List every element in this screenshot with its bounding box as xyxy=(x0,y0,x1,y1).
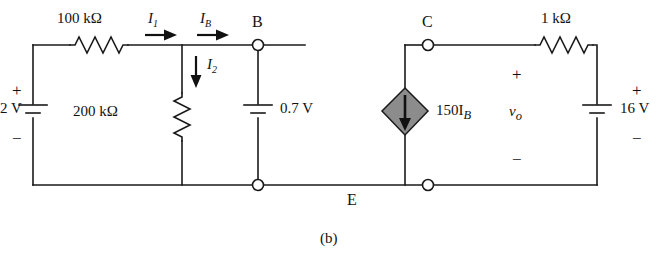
source-16v-minus-sign: − xyxy=(632,130,642,147)
source-2v-label: 2 V xyxy=(0,101,22,116)
current-arrow-i1-head xyxy=(164,30,177,41)
current-arrow-ib-head xyxy=(216,30,229,41)
figure-caption: (b) xyxy=(320,230,338,247)
wire-top-right-corner xyxy=(593,45,597,104)
source-16v-plus-sign: + xyxy=(632,82,642,99)
output-voltage-label: vo xyxy=(509,104,522,123)
resistor-1k-label: 1 kΩ xyxy=(541,11,571,26)
resistor-100k-symbol xyxy=(70,37,128,53)
current-arrow-i2-head xyxy=(191,75,202,88)
node-terminal-c xyxy=(423,40,434,51)
current-label-ib: IB xyxy=(200,11,211,29)
source-2v-minus-sign: − xyxy=(12,130,22,147)
circuit-figure: 100 kΩ 200 kΩ 1 kΩ I1 IB I2 B C E + 2 V … xyxy=(0,0,660,257)
node-label-e: E xyxy=(347,192,357,208)
circuit-schematic-svg xyxy=(0,0,660,257)
source-2v-plus-sign: + xyxy=(12,82,22,99)
resistor-1k-symbol xyxy=(535,37,593,53)
node-label-b: B xyxy=(252,14,263,30)
output-minus-sign: − xyxy=(512,151,522,168)
source-0p7v-label: 0.7 V xyxy=(280,101,313,116)
node-terminal-b xyxy=(253,40,264,51)
node-terminal-e-left xyxy=(253,180,264,191)
resistor-200k-symbol xyxy=(174,93,190,141)
node-label-c: C xyxy=(422,14,433,30)
node-terminal-e-right xyxy=(423,180,434,191)
source-16v-label: 16 V xyxy=(620,101,649,116)
output-plus-sign: + xyxy=(512,66,522,83)
current-label-i1: I1 xyxy=(148,11,158,29)
resistor-200k-label: 200 kΩ xyxy=(73,104,118,119)
current-label-i2: I2 xyxy=(207,57,217,75)
dependent-source-label: 150IB xyxy=(436,103,471,122)
dependent-current-source-symbol xyxy=(382,88,428,135)
resistor-100k-label: 100 kΩ xyxy=(57,11,102,26)
